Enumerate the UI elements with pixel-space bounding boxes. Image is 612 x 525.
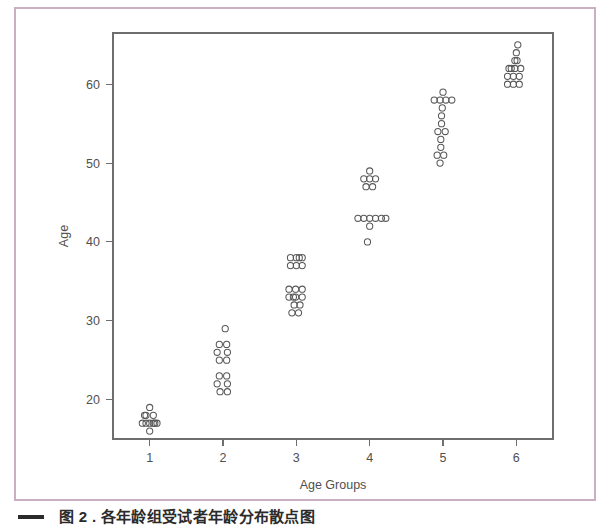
data-point — [217, 389, 223, 395]
data-point — [510, 81, 516, 87]
x-tick-label: 4 — [366, 451, 373, 465]
data-point — [441, 152, 447, 158]
x-tick-label: 1 — [146, 451, 153, 465]
data-point — [224, 357, 230, 363]
plot-svg: 2030405060 123456 Age Age Groups — [0, 0, 612, 525]
data-point — [297, 302, 303, 308]
data-point — [438, 144, 444, 150]
data-point — [434, 152, 440, 158]
data-point — [224, 373, 230, 379]
data-point — [513, 50, 519, 56]
point-group-4 — [355, 168, 389, 245]
data-point — [510, 73, 516, 79]
data-point — [372, 215, 378, 221]
data-point — [293, 286, 299, 292]
x-tick-label: 5 — [440, 451, 447, 465]
figure-caption: 图 2 . 各年龄组受试者年龄分布散点图 — [0, 508, 612, 525]
data-point — [355, 215, 361, 221]
data-point — [222, 326, 228, 332]
data-point — [367, 215, 373, 221]
y-axis-title: Age — [57, 225, 71, 247]
data-point — [286, 286, 292, 292]
data-point — [299, 294, 305, 300]
data-point — [299, 262, 305, 268]
data-point — [367, 223, 373, 229]
data-point — [293, 262, 299, 268]
data-point — [431, 97, 437, 103]
point-group-1 — [139, 404, 160, 434]
data-point — [435, 128, 441, 134]
data-point — [504, 73, 510, 79]
x-tick-label: 6 — [513, 451, 520, 465]
y-tick-label: 30 — [86, 314, 100, 328]
data-point — [143, 420, 149, 426]
data-point — [364, 239, 370, 245]
data-point — [438, 113, 444, 119]
data-points-layer — [139, 42, 524, 434]
data-point — [216, 357, 222, 363]
data-point — [147, 404, 153, 410]
data-point — [287, 255, 293, 261]
x-axis-title: Age Groups — [300, 478, 367, 492]
point-group-6 — [504, 42, 523, 88]
data-point — [150, 412, 156, 418]
data-point — [438, 136, 444, 142]
y-tick-label: 20 — [86, 393, 100, 407]
plot-frame — [113, 33, 553, 439]
data-point — [442, 128, 448, 134]
data-point — [363, 184, 369, 190]
data-point — [224, 349, 230, 355]
data-point — [224, 381, 230, 387]
data-point — [440, 89, 446, 95]
x-axis-ticks: 123456 — [146, 439, 520, 465]
data-point — [437, 160, 443, 166]
data-point — [504, 81, 510, 87]
data-point — [224, 389, 230, 395]
scatter-plot: 2030405060 123456 Age Age Groups — [0, 0, 612, 525]
data-point — [214, 349, 220, 355]
data-point — [291, 302, 297, 308]
x-tick-label: 2 — [220, 451, 227, 465]
data-point — [439, 105, 445, 111]
data-point — [289, 310, 295, 316]
data-point — [214, 381, 220, 387]
caption-rule — [18, 515, 44, 519]
data-point — [372, 176, 378, 182]
point-group-3 — [286, 255, 305, 316]
data-point — [216, 341, 222, 347]
data-point — [515, 42, 521, 48]
data-point — [147, 428, 153, 434]
point-group-2 — [214, 326, 230, 395]
data-point — [224, 341, 230, 347]
point-group-5 — [431, 89, 455, 166]
x-tick-label: 3 — [293, 451, 300, 465]
data-point — [518, 65, 524, 71]
data-point — [361, 176, 367, 182]
data-point — [516, 73, 522, 79]
data-point — [437, 97, 443, 103]
data-point — [367, 176, 373, 182]
data-point — [295, 310, 301, 316]
y-axis-ticks: 2030405060 — [86, 78, 113, 407]
data-point — [449, 97, 455, 103]
data-point — [370, 184, 376, 190]
y-tick-label: 50 — [86, 157, 100, 171]
data-point — [361, 215, 367, 221]
data-point — [516, 81, 522, 87]
data-point — [299, 286, 305, 292]
y-tick-label: 60 — [86, 78, 100, 92]
data-point — [438, 121, 444, 127]
caption-text: 图 2 . 各年龄组受试者年龄分布散点图 — [59, 508, 315, 525]
data-point — [367, 168, 373, 174]
data-point — [383, 215, 389, 221]
data-point — [216, 373, 222, 379]
data-point — [443, 97, 449, 103]
y-tick-label: 40 — [86, 235, 100, 249]
data-point — [287, 262, 293, 268]
